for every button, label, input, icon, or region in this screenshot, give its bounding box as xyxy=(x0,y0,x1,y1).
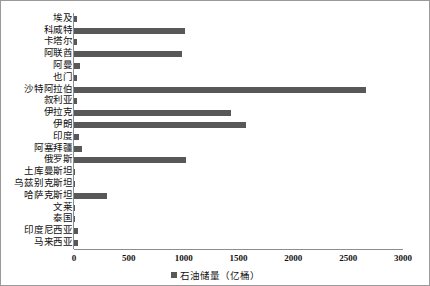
bar xyxy=(74,240,78,246)
bar xyxy=(74,110,231,116)
legend-swatch-icon xyxy=(171,272,177,278)
category-label: 阿曼 xyxy=(53,61,73,71)
bar-row: 乌兹别克斯坦 xyxy=(1,178,430,190)
bar-row: 卡塔尔 xyxy=(1,37,430,49)
category-label: 俄罗斯 xyxy=(44,156,73,166)
x-tick-label: 1000 xyxy=(175,253,193,263)
bar-row: 也门 xyxy=(1,72,430,84)
x-axis-line xyxy=(74,249,403,250)
bar-row: 阿曼 xyxy=(1,60,430,72)
bar-row: 埃及 xyxy=(1,13,430,25)
bar xyxy=(74,28,185,34)
bar xyxy=(74,205,75,211)
bar xyxy=(74,87,366,93)
bar xyxy=(74,181,75,187)
category-label: 印度 xyxy=(53,132,73,142)
x-tick-label: 2000 xyxy=(284,253,302,263)
bar-row: 泰国 xyxy=(1,214,430,226)
category-label: 阿塞拜疆 xyxy=(34,144,73,154)
plot-area: 埃及科威特卡塔尔阿联酋阿曼也门沙特阿拉伯叙利亚伊拉克伊朗印度阿塞拜疆俄罗斯土库曼… xyxy=(1,1,430,286)
bar xyxy=(74,134,79,140)
bar-row: 土库曼斯坦 xyxy=(1,166,430,178)
category-label: 伊朗 xyxy=(53,120,73,130)
x-tick-label: 0 xyxy=(72,253,77,263)
category-label: 印度尼西亚 xyxy=(24,227,73,237)
x-tick-label: 500 xyxy=(122,253,136,263)
category-label: 泰国 xyxy=(53,215,73,225)
x-tick-label: 2500 xyxy=(339,253,357,263)
category-label: 文莱 xyxy=(53,203,73,213)
category-label: 乌兹别克斯坦 xyxy=(14,179,73,189)
bar-row: 科威特 xyxy=(1,25,430,37)
bar-row: 阿联酋 xyxy=(1,48,430,60)
bar-row: 马来西亚 xyxy=(1,237,430,249)
bar-row: 印度 xyxy=(1,131,430,143)
bar xyxy=(74,16,77,22)
legend-label: 石油储量（亿桶） xyxy=(180,268,260,282)
chart-container: 埃及科威特卡塔尔阿联酋阿曼也门沙特阿拉伯叙利亚伊拉克伊朗印度阿塞拜疆俄罗斯土库曼… xyxy=(0,0,430,286)
bar xyxy=(74,75,77,81)
bar xyxy=(74,228,78,234)
bar xyxy=(74,146,82,152)
bar xyxy=(74,51,182,57)
x-tick-label: 3000 xyxy=(394,253,412,263)
bar-row: 文莱 xyxy=(1,202,430,214)
bar-row: 阿塞拜疆 xyxy=(1,143,430,155)
bar-row: 印度尼西亚 xyxy=(1,225,430,237)
bar xyxy=(74,193,107,199)
category-label: 沙特阿拉伯 xyxy=(24,85,73,95)
category-label: 叙利亚 xyxy=(44,97,73,107)
category-label: 埃及 xyxy=(53,14,73,24)
bar-row: 叙利亚 xyxy=(1,96,430,108)
bar xyxy=(74,216,75,222)
category-label: 也门 xyxy=(53,73,73,83)
category-label: 马来西亚 xyxy=(34,238,73,248)
bar-row: 伊朗 xyxy=(1,119,430,131)
bar xyxy=(74,122,246,128)
bar xyxy=(74,63,80,69)
bar-row: 伊拉克 xyxy=(1,107,430,119)
chart-legend: 石油储量（亿桶） xyxy=(1,268,429,282)
bar xyxy=(74,39,77,45)
bar-row: 沙特阿拉伯 xyxy=(1,84,430,96)
bar xyxy=(74,157,186,163)
x-tick-label: 1500 xyxy=(230,253,248,263)
category-label: 科威特 xyxy=(44,26,73,36)
category-label: 卡塔尔 xyxy=(44,38,73,48)
bar-row: 俄罗斯 xyxy=(1,155,430,167)
category-label: 土库曼斯坦 xyxy=(24,168,73,178)
bar xyxy=(74,98,77,104)
bar-row: 哈萨克斯坦 xyxy=(1,190,430,202)
category-label: 哈萨克斯坦 xyxy=(24,191,73,201)
category-label: 伊拉克 xyxy=(44,109,73,119)
category-label: 阿联酋 xyxy=(44,50,73,60)
bar xyxy=(74,169,75,175)
